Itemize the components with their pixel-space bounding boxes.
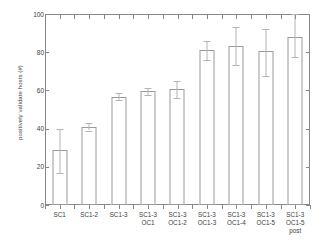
- error-bar-line: [148, 88, 149, 95]
- x-tick-label: SC1: [45, 211, 74, 219]
- y-tick-mark-right: [306, 129, 310, 130]
- error-bar-line: [206, 41, 207, 60]
- bar-group: [222, 14, 251, 205]
- y-tick-mark-right: [306, 52, 310, 53]
- bar-group: [74, 14, 103, 205]
- x-tick-label: SC1-3OC1-5post: [281, 211, 310, 235]
- x-tick-label-line: OC1: [133, 219, 162, 227]
- error-bar-cap-upper: [174, 81, 181, 82]
- x-tick-mark: [266, 205, 267, 209]
- error-bar-line: [236, 27, 237, 64]
- x-tick-label: SC1-3OC1: [133, 211, 162, 227]
- bar: [82, 127, 97, 205]
- y-axis-tick-labels: 020406080100: [20, 14, 44, 205]
- error-bar-cap-lower: [233, 65, 240, 66]
- y-tick-label: 20: [24, 163, 44, 170]
- bar-group: [281, 14, 310, 205]
- y-tick-label: 60: [24, 87, 44, 94]
- chart-figure: positively validate hosts (#) 0204060801…: [0, 0, 327, 248]
- error-bar-cap-lower: [86, 131, 93, 132]
- x-tick-mark-top: [236, 15, 237, 19]
- x-tick-mark-minor: [104, 205, 105, 209]
- x-tick-label-line: SC1-3: [222, 211, 251, 219]
- y-tick-mark-right: [306, 205, 310, 206]
- error-bar-cap-upper: [56, 129, 63, 130]
- error-bar-cap-upper: [262, 29, 269, 30]
- bar: [199, 50, 214, 205]
- x-tick-mark: [119, 205, 120, 209]
- error-bar-line: [177, 81, 178, 98]
- x-tick-mark-minor-top: [222, 15, 223, 19]
- x-tick-mark-top: [60, 15, 61, 19]
- error-bar-line: [59, 129, 60, 173]
- x-tick-mark-minor-top: [133, 15, 134, 19]
- error-bar-cap-lower: [56, 173, 63, 174]
- x-tick-mark-minor: [281, 205, 282, 209]
- x-tick-mark: [295, 205, 296, 209]
- x-tick-mark-minor: [133, 205, 134, 209]
- x-tick-mark: [148, 205, 149, 209]
- error-bar-cap-upper: [115, 93, 122, 94]
- x-tick-label-line: SC1-3: [281, 211, 310, 219]
- y-tick-label: 80: [24, 49, 44, 56]
- bar-series: [45, 14, 310, 205]
- x-tick-mark: [236, 205, 237, 209]
- error-bar-cap-lower: [145, 95, 152, 96]
- x-tick-label-line: SC1-3: [163, 211, 192, 219]
- y-tick-label: 0: [24, 202, 44, 209]
- x-tick-label-line: post: [281, 227, 310, 235]
- x-tick-label-line: OC1-5: [251, 219, 280, 227]
- y-tick-mark-right: [306, 167, 310, 168]
- x-tick-label: SC1-3: [104, 211, 133, 219]
- error-bar-cap-lower: [262, 76, 269, 77]
- x-tick-label-line: SC1-2: [74, 211, 103, 219]
- x-tick-mark-top: [295, 15, 296, 19]
- x-tick-label-line: SC1: [45, 211, 74, 219]
- x-tick-mark-minor: [74, 205, 75, 209]
- x-tick-mark-top: [178, 15, 179, 19]
- x-tick-mark-top: [207, 15, 208, 19]
- x-tick-mark-top: [148, 15, 149, 19]
- y-tick-mark: [45, 14, 49, 15]
- x-tick-mark-minor-top: [74, 15, 75, 19]
- bar: [141, 91, 156, 205]
- x-tick-mark: [178, 205, 179, 209]
- error-bar-cap-upper: [145, 88, 152, 89]
- x-tick-label-line: SC1-3: [104, 211, 133, 219]
- x-tick-mark-top: [89, 15, 90, 19]
- x-tick-label-line: OC1-2: [163, 219, 192, 227]
- x-tick-mark-minor: [192, 205, 193, 209]
- bar: [288, 37, 303, 205]
- error-bar-line: [265, 29, 266, 76]
- x-tick-mark-minor-top: [251, 15, 252, 19]
- x-tick-label-line: SC1-3: [133, 211, 162, 219]
- bar-group: [133, 14, 162, 205]
- error-bar-cap-lower: [203, 60, 210, 61]
- bar-group: [45, 14, 74, 205]
- bar-group: [163, 14, 192, 205]
- x-tick-label: SC1-3OC1-2: [163, 211, 192, 227]
- y-tick-mark: [45, 167, 49, 168]
- x-tick-mark-minor-top: [163, 15, 164, 19]
- x-tick-mark: [89, 205, 90, 209]
- y-tick-mark: [45, 52, 49, 53]
- y-tick-mark: [45, 90, 49, 91]
- x-tick-mark-minor-top: [104, 15, 105, 19]
- x-tick-mark-minor: [251, 205, 252, 209]
- x-tick-mark-minor: [222, 205, 223, 209]
- y-tick-label: 100: [24, 11, 44, 18]
- x-tick-mark-top: [119, 15, 120, 19]
- x-tick-label: SC1-3OC1-4: [222, 211, 251, 227]
- x-tick-mark-minor-top: [45, 15, 46, 19]
- error-bar-cap-lower: [115, 100, 122, 101]
- x-tick-mark-minor: [310, 205, 311, 209]
- x-tick-mark-top: [266, 15, 267, 19]
- y-tick-mark-right: [306, 90, 310, 91]
- x-tick-label-line: SC1-3: [251, 211, 280, 219]
- bar-group: [192, 14, 221, 205]
- x-tick-label-line: OC1-3: [192, 219, 221, 227]
- x-tick-label: SC1-3OC1-5: [251, 211, 280, 227]
- x-tick-label-line: OC1-5: [281, 219, 310, 227]
- y-tick-mark: [45, 205, 49, 206]
- x-tick-label-line: SC1-3: [192, 211, 221, 219]
